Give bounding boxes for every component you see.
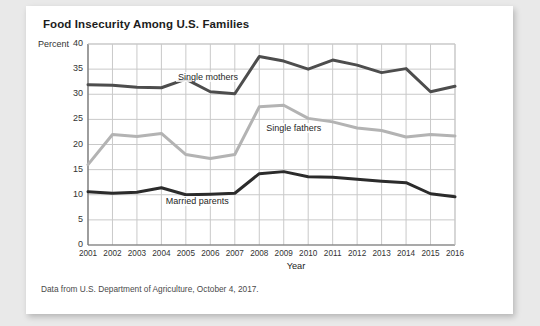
series-line-married-parents <box>88 172 455 197</box>
y-tick-label: 40 <box>61 38 83 48</box>
screenshot-root: Food Insecurity Among U.S. Families Perc… <box>0 0 540 326</box>
y-tick-label: 5 <box>61 214 83 224</box>
figure-card: Food Insecurity Among U.S. Families Perc… <box>26 6 513 314</box>
y-tick-label: 10 <box>61 189 83 199</box>
y-tick-label: 15 <box>61 164 83 174</box>
series-annotation: Single fathers <box>264 123 323 133</box>
y-tick-label: 25 <box>61 113 83 123</box>
series-line-single-fathers <box>88 105 455 164</box>
line-chart: 0510152025303540 20012002200320042005200… <box>26 6 513 314</box>
series-annotation: Married parents <box>164 196 231 206</box>
y-tick-label: 0 <box>61 239 83 249</box>
x-tick-label: 2016 <box>438 249 472 258</box>
source-note: Data from U.S. Department of Agriculture… <box>41 284 259 294</box>
y-tick-label: 30 <box>61 88 83 98</box>
y-tick-label: 35 <box>61 63 83 73</box>
x-axis-title: Year <box>266 261 326 271</box>
y-tick-label: 20 <box>61 139 83 149</box>
gridlines <box>88 44 455 245</box>
series-annotation: Single mothers <box>176 72 240 82</box>
series-line-single-mothers <box>88 57 455 94</box>
